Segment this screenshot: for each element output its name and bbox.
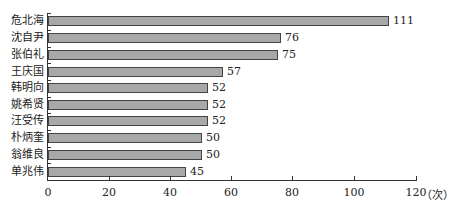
- category-label: 危北海: [6, 15, 44, 27]
- value-label: 57: [227, 66, 241, 78]
- value-label: 75: [282, 49, 296, 61]
- x-tick: [354, 176, 355, 180]
- value-label: 52: [212, 115, 226, 127]
- x-tick-label: 80: [285, 186, 299, 199]
- value-label: 45: [190, 166, 204, 178]
- bar: [48, 67, 223, 77]
- category-label: 王庆国: [6, 66, 44, 78]
- bar: [48, 16, 389, 26]
- bar: [48, 100, 208, 110]
- value-label: 76: [285, 32, 299, 44]
- value-label: 50: [206, 149, 220, 161]
- x-tick-label: 100: [344, 186, 365, 199]
- bar: [48, 50, 278, 60]
- y-tick: [47, 47, 51, 48]
- x-axis-unit-label: （次）: [421, 186, 454, 202]
- bar: [48, 83, 208, 93]
- category-label: 姚希贤: [6, 99, 44, 111]
- y-tick: [47, 13, 51, 14]
- x-tick-label: 20: [102, 186, 116, 199]
- x-axis: [47, 180, 417, 181]
- y-tick: [47, 163, 51, 164]
- y-tick: [47, 113, 51, 114]
- category-label: 韩明向: [6, 82, 44, 94]
- y-tick: [47, 63, 51, 64]
- x-tick: [109, 176, 110, 180]
- y-tick: [47, 80, 51, 81]
- bar: [48, 167, 186, 177]
- value-label: 111: [393, 15, 414, 27]
- category-label: 汪受传: [6, 115, 44, 127]
- x-tick: [170, 176, 171, 180]
- bar: [48, 116, 208, 126]
- category-label: 张伯礼: [6, 49, 44, 61]
- bar: [48, 150, 202, 160]
- y-tick: [47, 147, 51, 148]
- value-label: 52: [212, 82, 226, 94]
- bar: [48, 33, 281, 43]
- horizontal-bar-chart: 危北海 111 沈自尹 76 张伯礼 75 王庆国 57 韩明向 52 姚希贤 …: [0, 0, 463, 214]
- value-label: 52: [212, 99, 226, 111]
- bar: [48, 133, 202, 143]
- x-tick: [292, 176, 293, 180]
- category-label: 朴炳奎: [6, 132, 44, 144]
- category-label: 沈自尹: [6, 32, 44, 44]
- x-tick-label: 0: [45, 186, 52, 199]
- value-label: 50: [206, 132, 220, 144]
- x-tick: [416, 176, 417, 180]
- x-tick-label: 40: [163, 186, 177, 199]
- y-tick: [47, 130, 51, 131]
- y-tick: [47, 97, 51, 98]
- x-tick: [231, 176, 232, 180]
- category-label: 翁维良: [6, 149, 44, 161]
- category-label: 单兆伟: [6, 166, 44, 178]
- y-tick: [47, 30, 51, 31]
- x-tick-label: 60: [224, 186, 238, 199]
